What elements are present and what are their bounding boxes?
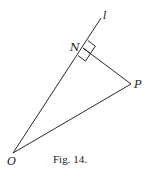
label-p: P <box>133 78 142 91</box>
label-o: O <box>7 155 16 168</box>
right-angle-marker-lower <box>78 54 90 62</box>
segment-op <box>13 84 131 153</box>
figure-caption: Fig. 14. <box>53 153 87 165</box>
line-l <box>13 18 101 153</box>
diagram: l N P O Fig. 14. <box>0 0 151 178</box>
label-l: l <box>103 9 107 22</box>
label-n: N <box>69 41 80 54</box>
